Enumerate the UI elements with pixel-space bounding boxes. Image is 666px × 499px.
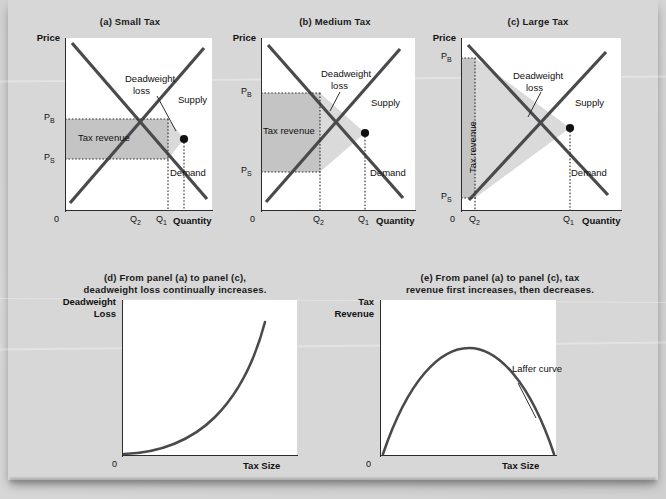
panel-a-demand-label: Demand — [170, 167, 206, 178]
panel-c-ps-label: PS — [441, 191, 452, 203]
panel-b-demand-label: Demand — [370, 167, 406, 178]
panel-b-q2-label: Q2 — [313, 214, 324, 226]
panel-b-equilibrium-point — [361, 129, 369, 137]
panel-e-tax-revenue-vs-tax-size: (e) From panel (a) to panel (c), tax rev… — [330, 260, 666, 490]
panel-c-equilibrium-point — [566, 124, 574, 132]
panel-c-q1-label: Q1 — [563, 214, 574, 226]
panel-e-laffer-leader — [518, 383, 536, 418]
panel-b-supply-label: Supply — [371, 97, 400, 108]
panel-a-deadweight-label-line2: loss — [133, 85, 150, 96]
panel-a-small-tax: (a) Small Tax Price Quantity 0 — [0, 0, 225, 240]
panel-a-deadweight-label-line1: Deadweight — [125, 73, 175, 84]
panel-a-q1-label: Q1 — [156, 214, 167, 226]
panel-e-laffer-curve-label: Laffer curve — [512, 363, 562, 374]
panel-c-graphics — [423, 0, 666, 240]
panel-b-tax-revenue-label: Tax revenue — [263, 125, 315, 136]
panel-b-graphics — [225, 0, 423, 240]
panel-a-supply-label: Supply — [178, 94, 207, 105]
panel-b-medium-tax: (b) Medium Tax Price Quantity 0 PB PS Q2… — [225, 0, 423, 240]
panel-c-q2-label: Q2 — [469, 214, 480, 226]
panel-d-graphics — [0, 260, 330, 490]
panel-c-tax-revenue-label: Tax revenue — [467, 121, 478, 173]
panel-c-pb-label: PB — [441, 51, 452, 63]
panel-b-ps-label: PS — [241, 165, 252, 177]
panel-a-graphics — [0, 0, 225, 240]
panel-a-pb-label: PB — [44, 112, 55, 124]
panel-c-supply-label: Supply — [575, 97, 604, 108]
panel-c-large-tax: (c) Large Tax Price Quantity 0 PB PS Q2 … — [423, 0, 666, 240]
panel-d-deadweight-loss-curve — [124, 322, 265, 454]
panel-d-deadweight-loss-vs-tax-size: (d) From panel (a) to panel (c), deadwei… — [0, 260, 330, 490]
panel-b-deadweight-label-line2: loss — [331, 80, 348, 91]
panel-a-tax-revenue-label: Tax revenue — [78, 132, 130, 143]
panel-a-equilibrium-point — [180, 135, 188, 143]
panel-c-deadweight-label-line2: loss — [526, 82, 543, 93]
panel-b-pb-label: PB — [241, 86, 252, 98]
panel-b-q1-label: Q1 — [358, 214, 369, 226]
panel-e-graphics — [330, 260, 666, 490]
panel-c-demand-label: Demand — [571, 167, 607, 178]
panel-b-deadweight-label-line1: Deadweight — [321, 68, 371, 79]
figure-page: (a) Small Tax Price Quantity 0 — [0, 0, 666, 499]
panel-a-q2-label: Q2 — [130, 214, 141, 226]
panel-a-ps-label: PS — [44, 152, 55, 164]
panel-c-deadweight-label-line1: Deadweight — [513, 70, 563, 81]
